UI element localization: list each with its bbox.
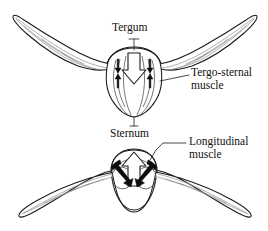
label-longitudinal-line2: muscle (189, 148, 248, 161)
leader-longitudinal (150, 143, 186, 160)
label-longitudinal-muscle: Longitudinal muscle (189, 135, 248, 160)
label-tergum: Tergum (112, 21, 147, 34)
label-tergo-sternal-muscle: Tergo-sternal muscle (191, 66, 252, 91)
leader-sternum (130, 118, 138, 126)
insect-flight-muscle-diagram: .ol{fill:#fff;stroke:#1a1a1a;stroke-widt… (0, 0, 268, 231)
figure-canvas: .ol{fill:#fff;stroke:#1a1a1a;stroke-widt… (0, 0, 268, 231)
label-longitudinal-line1: Longitudinal (189, 135, 248, 148)
label-tergo-sternal-line2: muscle (191, 79, 252, 92)
wing-upper-right (160, 15, 257, 70)
label-tergo-sternal-line1: Tergo-sternal (191, 66, 252, 79)
leader-tergo-sternal (160, 75, 189, 81)
wing-lower-right (156, 170, 251, 217)
label-sternum: Sternum (110, 127, 149, 140)
wing-upper-left (13, 15, 110, 70)
wing-lower-left (19, 170, 114, 217)
